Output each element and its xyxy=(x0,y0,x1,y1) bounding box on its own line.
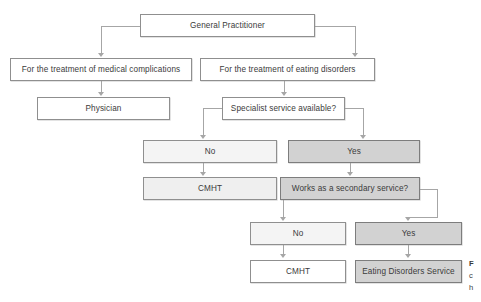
arrow-no-to-cmht1 xyxy=(200,172,206,176)
node-physician-label: Physician xyxy=(86,104,122,113)
connector-specialist-right-vertical xyxy=(363,108,364,135)
node-cmht-level1-label: CMHT xyxy=(198,184,222,193)
flowchart-canvas: General Practitioner For the treatment o… xyxy=(0,0,481,302)
connector-secondary-right-horizontal xyxy=(419,189,438,190)
arrow-yes2-to-eds xyxy=(405,254,411,258)
node-general-practitioner[interactable]: General Practitioner xyxy=(140,14,315,37)
arrow-eating-to-specialist xyxy=(281,92,287,96)
node-medical-complications[interactable]: For the treatment of medical complicatio… xyxy=(10,58,192,81)
node-secondary-no-label: No xyxy=(293,229,304,238)
node-cmht-level1[interactable]: CMHT xyxy=(143,177,277,200)
arrow-specialist-to-no xyxy=(200,135,206,139)
node-eating-disorders-service-label: Eating Disorders Service xyxy=(362,267,455,276)
connector-medical-to-physician xyxy=(101,80,102,92)
connector-gp-right-horizontal xyxy=(314,26,356,27)
connector-eating-to-specialist xyxy=(284,80,285,92)
node-specialist-yes[interactable]: Yes xyxy=(288,140,420,163)
figure-caption-line-2: c xyxy=(469,270,474,282)
arrow-gp-to-eating xyxy=(352,53,358,57)
connector-secondary-right-vertical xyxy=(437,189,438,217)
connector-specialist-left-vertical xyxy=(203,108,204,135)
node-secondary-no[interactable]: No xyxy=(250,222,346,245)
node-specialist-service-available-label: Specialist service available? xyxy=(231,104,336,113)
connector-gp-left-horizontal xyxy=(101,26,141,27)
connector-gp-right-vertical xyxy=(355,26,356,53)
node-secondary-service[interactable]: Works as a secondary service? xyxy=(280,177,420,200)
node-secondary-yes[interactable]: Yes xyxy=(355,222,462,245)
node-secondary-service-label: Works as a secondary service? xyxy=(292,184,409,193)
node-eating-disorders-service[interactable]: Eating Disorders Service xyxy=(355,260,462,283)
connector-gp-left-vertical xyxy=(101,26,102,53)
node-eating-disorders[interactable]: For the treatment of eating disorders xyxy=(200,58,375,81)
arrow-specialist-to-yes xyxy=(360,135,366,139)
node-specialist-no[interactable]: No xyxy=(143,140,277,163)
node-eating-disorders-label: For the treatment of eating disorders xyxy=(219,65,355,74)
node-general-practitioner-label: General Practitioner xyxy=(190,21,265,30)
connector-specialist-left-horizontal xyxy=(203,108,223,109)
arrow-no2-to-cmht2 xyxy=(280,254,286,258)
node-secondary-yes-label: Yes xyxy=(402,229,416,238)
node-medical-complications-label: For the treatment of medical complicatio… xyxy=(22,65,180,74)
figure-caption-line-3: h xyxy=(469,282,474,294)
arrow-secondary-to-no xyxy=(280,217,286,221)
node-specialist-no-label: No xyxy=(205,147,216,156)
figure-caption-line-1: F xyxy=(469,258,474,270)
node-specialist-service-available[interactable]: Specialist service available? xyxy=(222,97,345,120)
arrow-yes-to-secondary xyxy=(347,172,353,176)
arrow-medical-to-physician xyxy=(98,92,104,96)
connector-specialist-right-horizontal xyxy=(345,108,364,109)
figure-caption: F c h xyxy=(469,258,474,295)
node-physician[interactable]: Physician xyxy=(37,97,170,120)
node-specialist-yes-label: Yes xyxy=(347,147,361,156)
arrow-gp-to-medical xyxy=(98,53,104,57)
node-cmht-level2[interactable]: CMHT xyxy=(250,260,346,283)
connector-secondary-right-elbow xyxy=(408,217,438,218)
node-cmht-level2-label: CMHT xyxy=(286,267,310,276)
